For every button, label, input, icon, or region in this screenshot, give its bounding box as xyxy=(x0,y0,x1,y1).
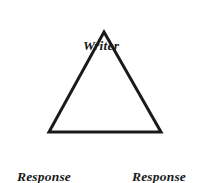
diagram-canvas: Writer Response partner Response partner xyxy=(0,0,202,183)
node-label-writer-line-1: Writer xyxy=(0,38,202,53)
node-label-response-partner-right-line-1: Response xyxy=(116,169,202,183)
node-label-response-partner-left: Response partner xyxy=(0,139,88,183)
node-label-writer: Writer xyxy=(0,8,202,84)
node-label-response-partner-right: Response partner xyxy=(116,139,202,183)
node-label-response-partner-left-line-1: Response xyxy=(0,169,88,183)
